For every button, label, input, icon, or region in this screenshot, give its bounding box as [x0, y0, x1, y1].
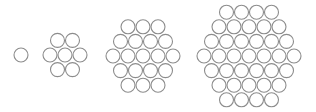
cluster-1 [14, 48, 28, 62]
circle [106, 49, 120, 63]
circle [121, 78, 135, 92]
circle [205, 64, 219, 78]
circle [280, 64, 294, 78]
circle [272, 20, 286, 34]
circle [43, 48, 57, 62]
circle [257, 20, 271, 34]
circle [242, 49, 256, 63]
circle [51, 33, 65, 47]
circle [136, 49, 150, 63]
circle [272, 49, 286, 63]
circle [212, 20, 226, 34]
circle [220, 64, 234, 78]
circle [114, 34, 128, 48]
circle [287, 49, 301, 63]
circle [166, 49, 180, 63]
circle [159, 34, 173, 48]
cluster-7 [43, 33, 87, 76]
cluster-37 [197, 5, 301, 107]
circle [227, 20, 241, 34]
circle [159, 64, 173, 78]
circle [121, 49, 135, 63]
circle [265, 93, 279, 107]
circle [136, 20, 150, 34]
circle [73, 48, 87, 62]
circle [257, 49, 271, 63]
circle [265, 5, 279, 19]
circle [250, 34, 264, 48]
circle [66, 33, 80, 47]
circle [129, 34, 143, 48]
circle [205, 34, 219, 48]
circle [280, 34, 294, 48]
circle [235, 93, 249, 107]
circle [66, 63, 80, 77]
circle [250, 5, 264, 19]
circle [121, 20, 135, 34]
circle [250, 93, 264, 107]
circle [129, 64, 143, 78]
circle [51, 63, 65, 77]
circle [242, 20, 256, 34]
circle [235, 64, 249, 78]
circle [151, 78, 165, 92]
circle [227, 78, 241, 92]
circle [250, 64, 264, 78]
circle [220, 5, 234, 19]
circle [265, 34, 279, 48]
circle [197, 49, 211, 63]
circle [14, 48, 28, 62]
circle [144, 64, 158, 78]
circle [265, 64, 279, 78]
circle [242, 78, 256, 92]
circle [212, 49, 226, 63]
circle [144, 34, 158, 48]
circle [212, 78, 226, 92]
circle [151, 49, 165, 63]
circle [235, 34, 249, 48]
circle [257, 78, 271, 92]
circle-packing-diagram [0, 0, 316, 112]
circle [272, 78, 286, 92]
circle [114, 64, 128, 78]
circle [220, 93, 234, 107]
circle [220, 34, 234, 48]
circle [58, 48, 72, 62]
circle [151, 20, 165, 34]
circle [235, 5, 249, 19]
circle [136, 78, 150, 92]
circle [227, 49, 241, 63]
cluster-19 [106, 20, 180, 92]
